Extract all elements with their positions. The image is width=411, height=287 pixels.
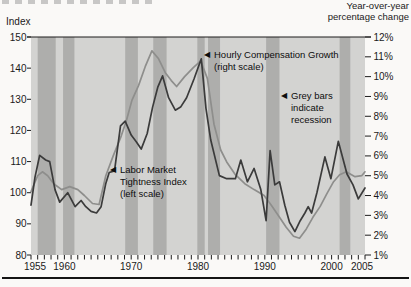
x-axis-tick-label: 2000 [320,261,343,272]
grey-bars-label: ◀Grey barsindicaterecession [281,90,333,126]
hourly-compensation-growth-label-text: Hourly Compensation Growth(right scale) [214,49,339,73]
annotation-line: Labor Market [120,164,187,176]
page: Index Year-over-year percentage change 1… [0,0,411,287]
recession-bar [125,37,138,255]
left-axis-tick-label: 100 [10,187,27,198]
x-axis-tick-label: 1980 [187,261,210,272]
annotation-line: recession [291,114,333,126]
right-axis-tick-label: 6% [374,150,389,161]
annotation-line: Grey bars [291,90,333,102]
annotation-line: (right scale) [214,61,339,73]
right-axis-tick-label: 9% [374,91,389,102]
annotation-line: (left scale) [120,188,187,200]
x-axis-tick-label: 2005 [351,261,374,272]
left-axis-tick-label: 150 [10,32,27,43]
annotation-line: Hourly Compensation Growth [214,49,339,61]
right-axis-tick-label: 2% [374,230,389,241]
right-axis-tick-label: 10% [374,71,394,82]
right-axis-tick-label: 8% [374,111,389,122]
left-arrow-icon: ◀ [281,90,287,102]
left-axis-tick-label: 80 [15,250,27,261]
chart-canvas: 150140130120110100908012%11%10%9%8%7%6%5… [0,0,411,287]
labor-market-tightness-label: ◀Labor MarketTightness Index(left scale) [110,164,187,200]
right-axis-tick-label: 5% [374,170,389,181]
line-chart: 150140130120110100908012%11%10%9%8%7%6%5… [0,0,411,287]
right-axis-tick-label: 3% [374,210,389,221]
x-axis-tick-label: 1990 [254,261,277,272]
recession-bar [340,37,351,255]
right-axis-tick-label: 12% [374,32,394,43]
hourly-compensation-growth-label: ◀Hourly Compensation Growth(right scale) [204,49,339,73]
recession-bar [63,37,74,255]
labor-market-tightness-label-text: Labor MarketTightness Index(left scale) [120,164,187,200]
right-axis-tick-label: 1% [374,250,389,261]
left-arrow-icon: ◀ [204,49,210,61]
x-axis-tick-label: 1970 [120,261,143,272]
x-axis-tick-label: 1955 [24,261,47,272]
x-axis-tick-label: 1960 [53,261,76,272]
left-arrow-icon: ◀ [110,164,116,176]
grey-bars-label-text: Grey barsindicaterecession [291,90,333,126]
recession-bar [38,37,56,255]
left-axis-tick-label: 140 [10,63,27,74]
annotation-line: indicate [291,102,333,114]
right-axis-tick-label: 4% [374,190,389,201]
left-axis-tick-label: 120 [10,125,27,136]
annotation-line: Tightness Index [120,176,187,188]
right-axis-tick-label: 7% [374,131,389,142]
left-axis-tick-label: 130 [10,94,27,105]
right-axis-tick-label: 11% [374,51,393,62]
left-axis-tick-label: 110 [11,156,27,167]
left-axis-tick-label: 90 [15,218,27,229]
